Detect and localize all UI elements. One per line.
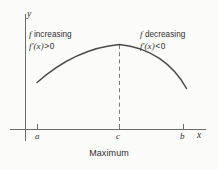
- annotation-decreasing-text: decreasing: [143, 30, 186, 39]
- annotation-increasing: f increasing f′(x)>0: [29, 29, 72, 52]
- annotation-increasing-line1: f increasing: [29, 29, 72, 40]
- x-tick-label-c: c: [116, 131, 120, 142]
- figure-canvas: [0, 0, 218, 170]
- annotation-decreasing: f decreasing f′(x)<0: [140, 29, 185, 52]
- annotation-decreasing-line1: f decreasing: [140, 29, 185, 40]
- calculus-maximum-figure: y x a c b f increasing f′(x)>0 f decreas…: [0, 0, 218, 170]
- annotation-increasing-text: increasing: [32, 30, 72, 39]
- derivative-symbol-left: f′(x): [29, 41, 44, 51]
- y-axis-label: y: [27, 9, 31, 20]
- annotation-decreasing-line2: f′(x)<0: [140, 41, 185, 52]
- x-tick-label-b: b: [180, 131, 185, 142]
- derivative-value-right: 0: [161, 42, 166, 51]
- x-axis-label: x: [197, 130, 201, 141]
- derivative-value-left: 0: [50, 42, 55, 51]
- annotation-increasing-line2: f′(x)>0: [29, 41, 72, 52]
- derivative-symbol-right: f′(x): [140, 41, 155, 51]
- figure-caption: Maximum: [0, 148, 218, 158]
- x-tick-label-a: a: [35, 131, 40, 142]
